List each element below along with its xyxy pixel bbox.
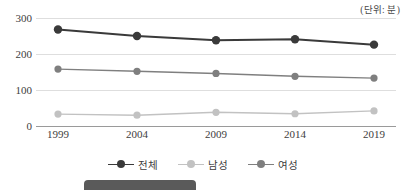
y-tick-label-100: 100	[2, 84, 32, 96]
x-tick-label-2019: 2019	[363, 128, 385, 140]
data-point-전체-2004[interactable]	[133, 32, 141, 40]
x-tick-label-1999: 1999	[47, 128, 69, 140]
legend-label: 여성	[278, 157, 298, 172]
unit-caption: (단위: 분)	[360, 2, 400, 16]
legend-label: 전체	[138, 157, 158, 172]
legend-marker-icon	[248, 158, 274, 170]
data-point-여성-2004[interactable]	[133, 68, 140, 75]
data-point-남성-2009[interactable]	[212, 109, 219, 116]
legend-item-여성[interactable]: 여성	[248, 157, 298, 172]
legend-marker-icon	[108, 158, 134, 170]
line-chart: (단위: 분) 0100200300 19992004200920142019 …	[0, 0, 406, 190]
chart-legend: 전체남성여성	[0, 152, 406, 176]
data-point-남성-2014[interactable]	[291, 110, 298, 117]
y-tick-label-0: 0	[2, 120, 32, 132]
data-point-남성-2019[interactable]	[370, 107, 377, 114]
data-point-전체-2009[interactable]	[212, 36, 220, 44]
x-tick-label-2009: 2009	[205, 128, 227, 140]
data-point-전체-2014[interactable]	[291, 35, 299, 43]
data-point-전체-2019[interactable]	[370, 40, 378, 48]
legend-item-남성[interactable]: 남성	[178, 157, 228, 172]
x-tick-label-2004: 2004	[126, 128, 148, 140]
series-layer	[36, 18, 396, 126]
data-point-남성-2004[interactable]	[133, 112, 140, 119]
y-tick-label-300: 300	[2, 12, 32, 24]
data-point-여성-2014[interactable]	[291, 73, 298, 80]
legend-item-전체[interactable]: 전체	[108, 157, 158, 172]
data-point-여성-2019[interactable]	[370, 75, 377, 82]
data-point-여성-2009[interactable]	[212, 70, 219, 77]
x-tick-label-2014: 2014	[284, 128, 306, 140]
y-tick-label-200: 200	[2, 48, 32, 60]
data-point-전체-1999[interactable]	[54, 25, 62, 33]
gridline-0	[36, 126, 396, 127]
x-axis: 19992004200920142019	[36, 128, 396, 148]
data-point-남성-1999[interactable]	[54, 111, 61, 118]
bottom-bar-stub[interactable]	[84, 180, 196, 190]
plot-area	[36, 18, 396, 126]
legend-label: 남성	[208, 157, 228, 172]
data-point-여성-1999[interactable]	[54, 66, 61, 73]
legend-marker-icon	[178, 158, 204, 170]
y-axis: 0100200300	[0, 18, 32, 126]
